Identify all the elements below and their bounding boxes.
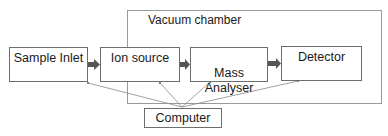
thick-arrow-icon <box>88 59 100 70</box>
node-computer: Computer <box>144 108 222 128</box>
thick-arrow-icon <box>268 58 281 69</box>
link-computer-sample-inlet <box>88 83 182 107</box>
link-computer-ion-source <box>160 83 182 107</box>
node-sample-inlet: Sample Inlet <box>9 47 88 82</box>
node-ion-source: Ion source <box>100 47 180 82</box>
thick-arrow-icon <box>180 59 190 70</box>
node-mass-analyser: Mass Analyser <box>190 47 268 82</box>
node-detector: Detector <box>281 46 362 81</box>
